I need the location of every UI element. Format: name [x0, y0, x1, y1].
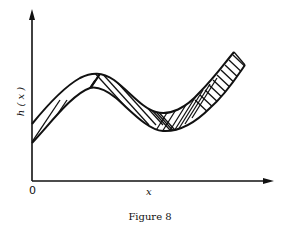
figure-caption: Figure 8 [0, 211, 286, 222]
x-axis-label: x [146, 186, 152, 197]
figure-plot [0, 0, 286, 226]
y-axis-arrow-icon [29, 9, 35, 20]
x-axis-arrow-icon [263, 178, 274, 184]
origin-label: 0 [29, 184, 36, 197]
y-axis-label: h ( x ) [15, 87, 26, 116]
